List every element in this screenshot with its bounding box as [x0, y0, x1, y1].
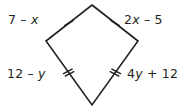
tick-mark-upper-right-single: [110, 20, 119, 26]
side-label-top-right-pre: 2: [124, 12, 132, 27]
kite-figure: 7 – x 2x – 5 12 – y 4y + 12: [0, 0, 184, 111]
side-label-top-left-pre: 7 –: [8, 12, 31, 27]
side-label-top-left-variable: x: [31, 12, 39, 27]
side-label-bottom-right: 4y + 12: [127, 68, 178, 81]
side-label-bottom-right-pre: 4: [127, 66, 135, 81]
side-label-bottom-left-pre: 12 –: [7, 66, 38, 81]
side-label-top-left: 7 – x: [8, 14, 39, 27]
side-label-top-right-post: – 5: [140, 12, 163, 27]
side-label-bottom-right-post: + 12: [143, 66, 178, 81]
side-label-bottom-right-variable: y: [135, 66, 143, 81]
side-label-bottom-left: 12 – y: [7, 68, 46, 81]
tick-mark-upper-left-single: [64, 20, 73, 26]
side-label-top-right-variable: x: [132, 12, 140, 27]
side-label-bottom-left-variable: y: [38, 66, 46, 81]
side-label-top-right: 2x – 5: [124, 14, 163, 27]
